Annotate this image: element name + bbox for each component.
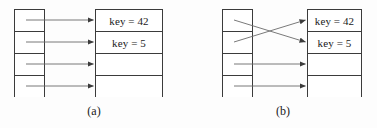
data-row[interactable]: key = 42 [96, 10, 162, 32]
index-slot[interactable] [15, 32, 44, 54]
index-slot[interactable] [15, 54, 44, 76]
panel-b-index-block [222, 9, 253, 97]
panel-b-caption: (b) [189, 104, 377, 119]
panel-a-data-block: key = 42 key = 5 [95, 9, 163, 97]
data-row[interactable] [96, 76, 162, 97]
data-row[interactable] [308, 54, 361, 76]
data-row-label: key = 42 [109, 15, 148, 27]
panel-b: key = 42 key = 5 [189, 0, 377, 128]
data-row[interactable] [96, 54, 162, 76]
panel-a: key = 42 key = 5 [0, 0, 188, 128]
data-row-label: key = 42 [315, 15, 354, 27]
data-row[interactable] [308, 76, 361, 97]
data-row[interactable]: key = 5 [96, 32, 162, 54]
index-slot[interactable] [223, 10, 252, 32]
index-slot[interactable] [223, 76, 252, 97]
panel-b-data-block: key = 42 key = 5 [307, 9, 362, 97]
index-slot[interactable] [223, 54, 252, 76]
panel-a-caption: (a) [0, 104, 188, 119]
index-slot[interactable] [15, 76, 44, 97]
index-slot[interactable] [15, 10, 44, 32]
data-row[interactable]: key = 42 [308, 10, 361, 32]
data-row[interactable]: key = 5 [308, 32, 361, 54]
data-row-label: key = 5 [112, 37, 146, 49]
index-slot[interactable] [223, 32, 252, 54]
figure-canvas: key = 42 key = 5 [0, 0, 377, 128]
panel-a-index-block [14, 9, 45, 97]
data-row-label: key = 5 [318, 37, 352, 49]
